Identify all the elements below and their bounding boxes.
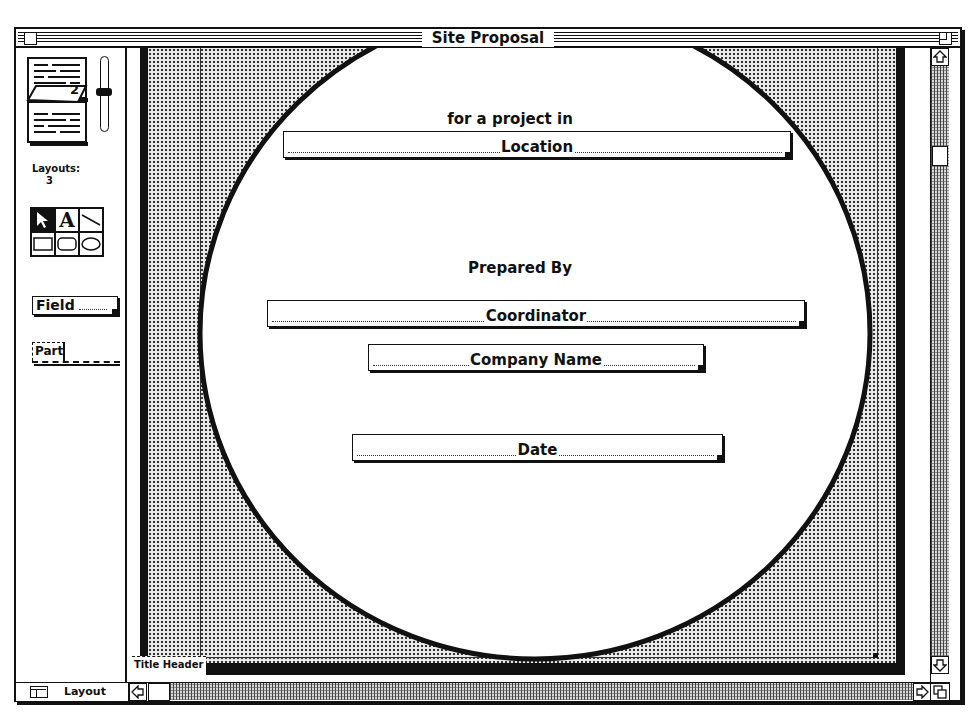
layout-mode-icon[interactable] [30, 686, 48, 698]
layout-book-icon[interactable]: 2 [26, 56, 90, 148]
layout-page-number: 2 [70, 82, 79, 97]
layouts-label: Layouts: [32, 163, 80, 174]
arrow-left-icon [131, 685, 145, 699]
slider-thumb[interactable] [96, 88, 112, 96]
window-title: Site Proposal [16, 30, 960, 47]
rounded-rectangle-tool[interactable] [55, 232, 79, 256]
scroll-left-button[interactable] [129, 683, 147, 701]
text-A-icon: A [59, 210, 75, 230]
resize-icon [933, 685, 947, 699]
rectangle-icon [33, 237, 53, 251]
vertical-scrollbar[interactable] [930, 48, 950, 682]
field-tool-label: Field [36, 297, 75, 314]
part-label-title-header[interactable]: Title Header [132, 656, 206, 679]
part-tool[interactable]: Part [32, 342, 120, 366]
static-text-prepared-by[interactable]: Prepared By [410, 259, 630, 277]
layouts-count: 3 [46, 175, 53, 186]
line-icon [81, 212, 101, 228]
horizontal-scroll-track[interactable] [170, 683, 913, 700]
oval-tool[interactable] [79, 232, 103, 256]
field-coordinator[interactable]: Coordinator [267, 300, 805, 327]
tool-panel: 2 Layouts: 3 A Field Pa [16, 48, 127, 682]
arrow-right-icon [915, 685, 929, 699]
size-box[interactable] [930, 683, 950, 701]
arrow-up-icon [933, 50, 947, 64]
vertical-scroll-thumb[interactable] [932, 146, 948, 166]
title-bar[interactable]: Site Proposal [16, 29, 960, 48]
bottom-bar: Layout [16, 682, 950, 701]
scroll-up-button[interactable] [931, 48, 949, 66]
rounded-rectangle-icon [57, 237, 77, 251]
field-date[interactable]: Date [352, 434, 723, 461]
zoom-box-button[interactable] [939, 32, 952, 45]
mode-label: Layout [64, 685, 106, 698]
scroll-right-button[interactable] [913, 683, 931, 701]
horizontal-scrollbar[interactable] [128, 683, 931, 701]
oval-icon [81, 237, 101, 251]
pointer-tool[interactable] [31, 208, 55, 232]
arrow-down-icon [933, 658, 947, 672]
static-text-for-project[interactable]: for a project in [410, 110, 610, 128]
part-tool-label: Part [35, 343, 63, 359]
tool-palette: A [30, 207, 104, 257]
layout-slider[interactable] [98, 56, 110, 132]
line-tool[interactable] [79, 208, 103, 232]
layout-canvas[interactable]: for a project in Location Prepared By Co… [128, 48, 930, 683]
field-tool[interactable]: Field [32, 296, 118, 315]
arrow-pointer-icon [35, 211, 51, 229]
rectangle-tool[interactable] [31, 232, 55, 256]
scroll-down-button[interactable] [931, 656, 949, 674]
text-tool[interactable]: A [55, 208, 79, 232]
field-location[interactable]: Location [283, 131, 791, 158]
horizontal-scroll-thumb[interactable] [148, 683, 170, 701]
field-company-name[interactable]: Company Name [368, 344, 704, 371]
